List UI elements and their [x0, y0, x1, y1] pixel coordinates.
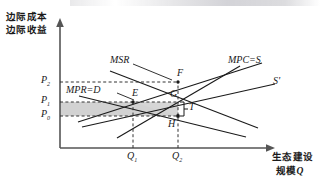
point-label-F: F [177, 68, 183, 79]
point-label-G: G [170, 89, 177, 100]
y-tick-p2: P2 [41, 75, 50, 87]
x-tick-q1: Q1 [127, 151, 137, 163]
point-label-T: T [189, 102, 195, 113]
figure-canvas: 边际成本 边际收益 生态建设 规模Q P2 P1 P0 Q1 Q2 MSR MP… [0, 0, 323, 188]
x-axis-label-line1: 生态建设 [272, 152, 313, 162]
x-axis-label-var: Q [297, 166, 304, 176]
x-tick-q2: Q2 [172, 151, 182, 163]
curve-label-msr: MSR [110, 55, 129, 66]
point-label-E: E [132, 88, 138, 99]
marker-E [131, 100, 134, 103]
y-axis-label-line2: 边际收益 [6, 25, 47, 35]
curve-label-mpr-d: MPR=D [66, 85, 101, 96]
marker-H-T [176, 114, 180, 118]
point-label-H: H [168, 119, 175, 130]
leader-msr [133, 64, 172, 80]
curve-label-s-prime: S' [273, 76, 280, 87]
x-axis-label-line2: 规模Q [276, 166, 304, 177]
marker-F [176, 80, 179, 83]
y-tick-p1: P1 [41, 95, 50, 107]
curve-label-mpc-s: MPC=S [228, 55, 261, 66]
y-axis-arrow [56, 18, 64, 27]
y-tick-p0: P0 [41, 109, 50, 121]
y-axis-label-line1: 边际成本 [6, 12, 47, 22]
